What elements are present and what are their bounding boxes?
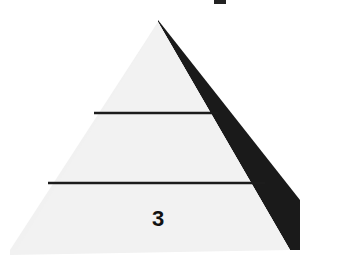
cropped-top-text-fragment <box>214 0 226 4</box>
pyramid-graphic <box>0 0 341 255</box>
tier-3-label: 3 <box>152 208 164 230</box>
